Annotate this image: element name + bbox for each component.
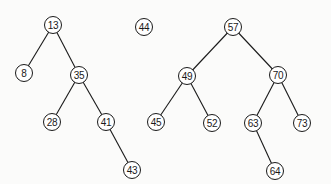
tree-node-57: 57: [224, 18, 242, 36]
tree-node-28: 28: [43, 113, 61, 131]
tree-node-35: 35: [70, 66, 88, 84]
tree-node-70: 70: [269, 66, 287, 84]
tree-node-8: 8: [15, 64, 33, 82]
tree-node-73: 73: [293, 114, 311, 132]
tree-node-52: 52: [203, 114, 221, 132]
tree-node-49: 49: [178, 67, 196, 85]
tree-node-44: 44: [135, 18, 153, 36]
tree-node-64: 64: [266, 162, 284, 180]
tree-diagram: 13835284143445749704552637364: [0, 0, 331, 184]
tree-node-43: 43: [123, 161, 141, 179]
tree-node-13: 13: [44, 16, 62, 34]
tree-node-45: 45: [147, 113, 165, 131]
tree-node-63: 63: [244, 114, 262, 132]
tree-edge: [187, 27, 233, 76]
tree-node-41: 41: [97, 113, 115, 131]
